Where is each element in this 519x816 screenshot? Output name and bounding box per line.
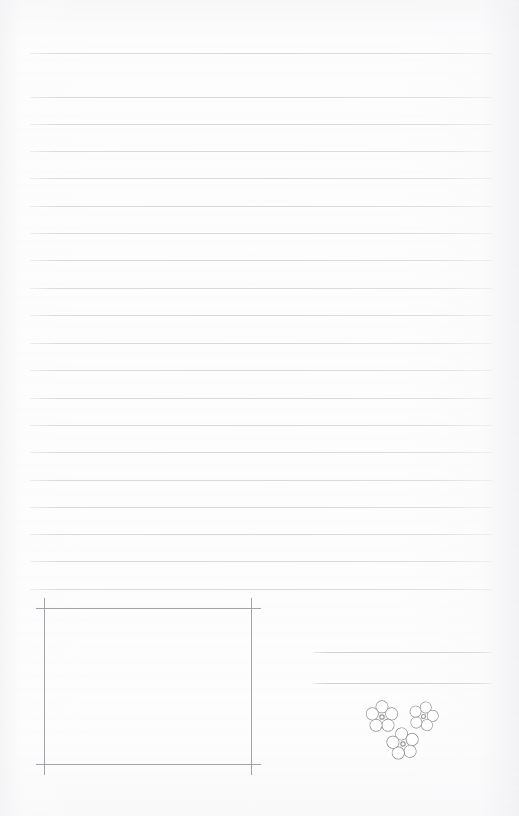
ruled-line <box>30 288 492 289</box>
flower-icon <box>404 697 442 735</box>
paper-tone-overlay <box>0 0 519 816</box>
framed-box-right-edge <box>251 598 252 775</box>
flower-icon <box>365 700 399 734</box>
short-rule <box>313 683 492 684</box>
ruled-line <box>30 53 492 54</box>
ruled-line <box>30 343 492 344</box>
ruled-line <box>30 425 492 426</box>
ruled-line <box>30 589 492 590</box>
ruled-line <box>30 151 492 152</box>
ruled-line <box>30 260 492 261</box>
ruled-line <box>30 507 492 508</box>
paper-grain-overlay <box>0 0 519 816</box>
ruled-line <box>30 480 492 481</box>
ruled-line <box>30 452 492 453</box>
ruled-line <box>30 233 492 234</box>
framed-box-bottom-edge <box>36 764 261 765</box>
notebook-page <box>0 0 519 816</box>
framed-box-left-edge <box>44 598 45 775</box>
ruled-line <box>30 398 492 399</box>
ruled-line <box>30 370 492 371</box>
ruled-line <box>30 97 492 98</box>
short-rule <box>313 652 492 653</box>
ruled-line <box>30 315 492 316</box>
flower-icon <box>384 725 422 763</box>
ruled-line <box>30 561 492 562</box>
framed-box-top-edge <box>36 608 261 609</box>
ruled-line <box>30 534 492 535</box>
ruled-line <box>30 178 492 179</box>
ruled-line <box>30 206 492 207</box>
ruled-line <box>30 124 492 125</box>
